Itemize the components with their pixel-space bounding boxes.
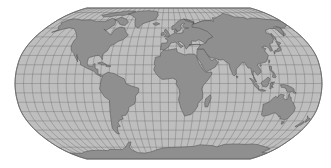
world-map xyxy=(0,0,331,168)
landmass-taiwan xyxy=(269,60,270,63)
landmass-sri-lanka xyxy=(236,76,238,78)
